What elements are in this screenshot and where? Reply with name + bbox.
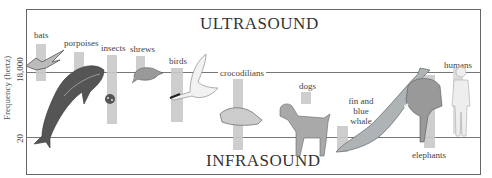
dogs-label: dogs: [299, 81, 316, 91]
shrew-icon: [130, 63, 164, 85]
bats-label: bats: [34, 30, 49, 40]
ladybug-icon: [104, 93, 116, 105]
y-axis-label: Frequency (hertz): [2, 56, 12, 120]
bird-icon: [166, 52, 222, 114]
dog-icon: [274, 102, 334, 158]
insects-range-bar: [107, 55, 117, 124]
shrews-label: shrews: [130, 44, 155, 54]
insects-label: insects: [101, 43, 126, 53]
human-icon: [450, 66, 472, 138]
ultrasound-title: ULTRASOUND: [200, 14, 319, 34]
y-tick-20: 20: [15, 134, 25, 143]
porpoise-icon: [34, 62, 106, 150]
crocodilians-label: crocodilians: [218, 68, 266, 78]
elephant-icon: [404, 76, 444, 146]
porpoises-label: porpoises: [64, 38, 99, 48]
crocodile-icon: [218, 104, 264, 128]
